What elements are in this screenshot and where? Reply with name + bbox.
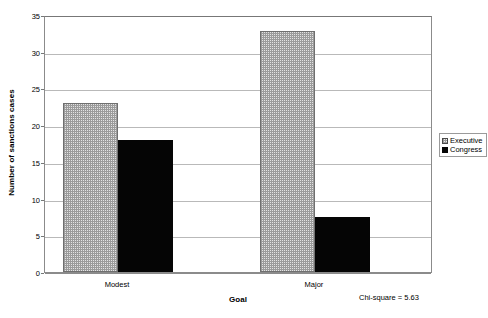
y-axis-ticks: 05101520253035	[0, 16, 44, 273]
legend-label-executive: Executive	[450, 136, 483, 145]
y-tick-label-5: 5	[10, 232, 44, 241]
legend-item-congress: Congress	[442, 145, 483, 154]
bar-modest-congress	[118, 140, 173, 272]
gridline-0	[45, 273, 431, 274]
gridline-25	[45, 90, 431, 91]
x-axis-title: Goal	[229, 295, 247, 304]
y-tick-label-15: 15	[10, 158, 44, 167]
y-tick-label-25: 25	[10, 85, 44, 94]
legend-label-congress: Congress	[450, 145, 482, 154]
legend-item-executive: Executive	[442, 136, 483, 145]
chart-legend: Executive Congress	[439, 133, 487, 157]
y-tick-label-35: 35	[10, 12, 44, 21]
plot-area	[44, 16, 432, 273]
y-tick-mark-0	[41, 273, 44, 274]
y-tick-label-30: 30	[10, 48, 44, 57]
x-category-label-major: Major	[305, 280, 324, 289]
chi-square-annotation: Chi-square = 5.63	[359, 293, 419, 302]
sanctions-cases-bar-chart: Number of sanctions cases 05101520253035…	[0, 0, 488, 318]
gridline-30	[45, 54, 431, 55]
x-category-label-modest: Modest	[105, 280, 130, 289]
legend-swatch-executive-icon	[442, 138, 448, 144]
bar-major-congress	[315, 217, 370, 272]
y-tick-label-20: 20	[10, 122, 44, 131]
y-tick-label-10: 10	[10, 195, 44, 204]
y-tick-label-0: 0	[10, 269, 44, 278]
bar-major-executive	[260, 31, 315, 272]
bar-modest-executive	[63, 103, 118, 272]
legend-swatch-congress-icon	[442, 147, 448, 153]
